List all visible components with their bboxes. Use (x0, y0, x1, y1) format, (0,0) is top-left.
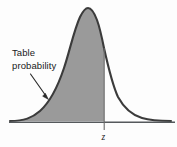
table-probability-label-line1: Table (12, 47, 35, 58)
table-probability-label-line2: probability (12, 60, 57, 71)
z-axis-variable-label: z (101, 132, 106, 142)
annotation-arrow-icon (31, 74, 49, 100)
normal-curve-figure: Table probability z (0, 0, 177, 147)
normal-curve-svg: Table probability z (0, 0, 177, 147)
